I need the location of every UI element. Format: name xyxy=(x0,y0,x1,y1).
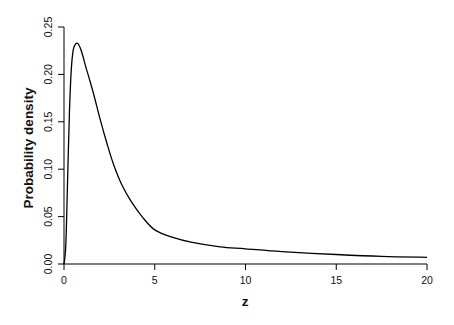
density-chart: 0.000.050.100.150.200.25 05101520 Probab… xyxy=(0,0,454,325)
y-axis: 0.000.050.100.150.200.25 xyxy=(42,17,64,275)
y-tick-label: 0.00 xyxy=(42,254,54,275)
x-axis: 05101520 xyxy=(61,264,433,286)
density-curve xyxy=(64,43,427,264)
y-tick-label: 0.05 xyxy=(42,206,54,227)
x-axis-title: z xyxy=(242,294,249,309)
x-tick-label: 5 xyxy=(152,274,158,286)
y-tick-label: 0.15 xyxy=(42,111,54,132)
y-axis-title: Probability density xyxy=(21,87,36,208)
x-tick-label: 20 xyxy=(421,274,433,286)
y-tick-label: 0.10 xyxy=(42,159,54,180)
y-tick-label: 0.25 xyxy=(42,17,54,38)
x-tick-label: 15 xyxy=(330,274,342,286)
x-tick-label: 10 xyxy=(240,274,252,286)
x-tick-label: 0 xyxy=(61,274,67,286)
y-tick-label: 0.20 xyxy=(42,64,54,85)
